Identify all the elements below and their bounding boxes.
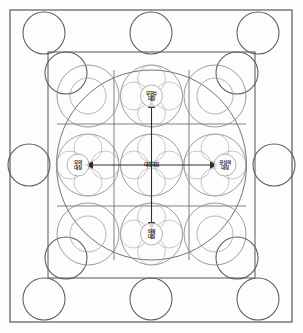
label-disc-east: [214, 154, 236, 176]
corner-circle-top-right: [216, 52, 258, 94]
band-circle-middle-right: [253, 144, 295, 186]
cell-circle-sw: [57, 203, 119, 265]
corner-circle-top-left: [45, 52, 87, 94]
corner-cell-circle-sw: [70, 216, 106, 252]
cell-circle-ne: [184, 65, 246, 127]
band-circle-bottom-right: [237, 278, 279, 320]
corner-circle-bottom-right: [216, 237, 258, 279]
axis-arrow-group: [84, 99, 219, 231]
band-circle-top-right: [237, 12, 279, 54]
label-disc-south: [141, 223, 163, 245]
band-circle-middle-left: [8, 144, 50, 186]
band-circle-bottom-center: [130, 278, 172, 320]
band-circle-top-left: [23, 12, 65, 54]
label-disc-west: [67, 154, 89, 176]
corner-cell-circle-ne: [197, 78, 233, 114]
corner-cell-circle-nw: [70, 78, 106, 114]
band-circle-top-center: [130, 12, 172, 54]
symmetry-diagram: 무한수 대칭 부의 대칭 대칭대칭 공성의 대칭 아래 대칭: [0, 0, 303, 333]
cell-circle-nw: [57, 65, 119, 127]
diagram-canvas: [0, 0, 303, 333]
band-circle-bottom-left: [23, 278, 65, 320]
corner-circle-bottom-left: [45, 237, 87, 279]
label-disc-north: [141, 85, 163, 107]
cell-circle-se: [184, 203, 246, 265]
corner-cell-circle-se: [197, 216, 233, 252]
